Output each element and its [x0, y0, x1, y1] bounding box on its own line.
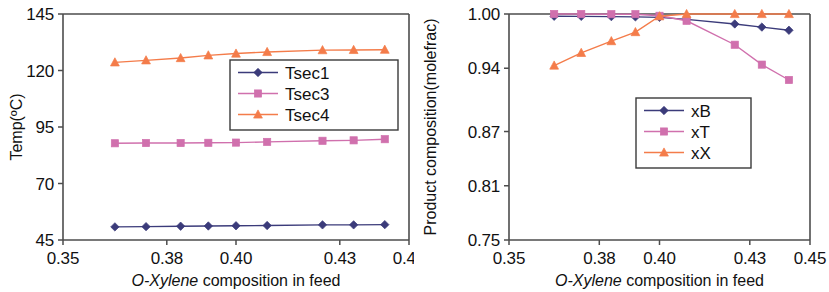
y-tick-label: 145 [26, 5, 54, 24]
x-tick-label: 0.35 [493, 249, 525, 268]
x-tick-label: 0.45 [393, 249, 414, 268]
chart-right-canvas: 0.750.810.870.941.000.350.380.400.430.45… [414, 0, 829, 292]
chart-right-svg: 0.750.810.870.941.000.350.380.400.430.45… [414, 0, 829, 292]
x-tick-label: 0.38 [583, 249, 615, 268]
x-tick-label: 0.38 [151, 249, 183, 268]
data-point-marker [204, 222, 212, 230]
chart-left-canvas: 4570951201450.350.380.400.430.45O-Xylene… [0, 0, 414, 292]
data-point-marker [319, 137, 326, 144]
legend-label-xX[interactable]: xX [691, 144, 711, 163]
y-tick-label: 45 [35, 231, 54, 250]
data-point-marker [350, 137, 357, 144]
data-point-marker [731, 41, 738, 48]
data-point-marker [550, 61, 559, 69]
x-axis-title: O-Xylene composition in feed [131, 272, 340, 289]
data-point-marker [254, 90, 261, 97]
series-line-Tsec3 [115, 139, 385, 143]
x-axis-ticks: 0.350.380.400.430.45 [47, 240, 414, 268]
data-point-marker [758, 61, 765, 68]
series-xT [551, 10, 793, 83]
data-point-marker [142, 139, 149, 146]
data-point-marker [111, 140, 118, 147]
y-tick-label: 0.75 [468, 231, 500, 250]
series-line-Tsec1 [115, 225, 385, 227]
x-axis-title: O-Xylene composition in feed [555, 272, 764, 289]
data-point-marker [785, 26, 793, 34]
series-Tsec3 [111, 136, 388, 147]
data-point-marker [177, 139, 184, 146]
legend[interactable]: xBxTxX [636, 98, 751, 168]
legend[interactable]: Tsec1Tsec3Tsec4 [230, 60, 398, 130]
chart-panel-left: 4570951201450.350.380.400.430.45O-Xylene… [0, 0, 414, 292]
y-axis-ticks: 0.750.810.870.941.00 [468, 5, 509, 250]
y-tick-label: 0.81 [468, 177, 500, 196]
data-point-marker [632, 11, 639, 18]
y-tick-label: 95 [35, 118, 54, 137]
y-axis-title: Product composition(molefrac) [422, 19, 439, 236]
y-tick-label: 1.00 [468, 5, 500, 24]
data-point-marker [318, 221, 326, 229]
legend-label-Tsec1[interactable]: Tsec1 [285, 64, 329, 83]
data-point-marker [176, 222, 184, 230]
data-point-marker [785, 76, 792, 83]
data-point-marker [631, 27, 640, 35]
data-point-marker [608, 11, 615, 18]
data-point-marker [660, 128, 667, 135]
data-point-marker [232, 139, 239, 146]
x-axis-ticks: 0.350.380.400.430.45 [493, 240, 826, 268]
x-tick-label: 0.40 [643, 249, 675, 268]
data-point-marker [349, 221, 357, 229]
y-axis-ticks: 457095120145 [26, 5, 63, 250]
data-point-marker [111, 223, 119, 231]
x-tick-label: 0.40 [220, 249, 252, 268]
data-point-marker [381, 136, 388, 143]
data-point-marker [731, 20, 739, 28]
x-tick-label: 0.43 [324, 249, 356, 268]
data-point-marker [758, 23, 766, 31]
x-tick-label: 0.43 [734, 249, 766, 268]
x-axis-title-italic: O-Xylene [555, 272, 622, 289]
series-Tsec1 [111, 220, 389, 231]
data-point-marker [264, 138, 271, 145]
data-point-marker [263, 221, 271, 229]
legend-label-Tsec3[interactable]: Tsec3 [285, 85, 329, 104]
chart-left-svg: 4570951201450.350.380.400.430.45O-Xylene… [0, 0, 414, 292]
data-point-marker [381, 220, 389, 228]
legend-label-xT[interactable]: xT [691, 123, 710, 142]
x-axis-title-rest: composition in feed [198, 272, 340, 289]
x-tick-label: 0.35 [47, 249, 79, 268]
data-point-marker [578, 10, 585, 17]
x-axis-title-italic: O-Xylene [131, 272, 198, 289]
legend-label-Tsec4[interactable]: Tsec4 [285, 106, 329, 125]
series-line-xT [554, 14, 789, 80]
y-tick-label: 0.87 [468, 123, 500, 142]
legend-label-xB[interactable]: xB [691, 102, 711, 121]
data-point-marker [551, 10, 558, 17]
data-point-marker [205, 139, 212, 146]
data-point-marker [142, 222, 150, 230]
data-point-marker [232, 222, 240, 230]
y-tick-label: 0.94 [468, 59, 500, 78]
x-tick-label: 0.45 [794, 249, 826, 268]
y-tick-label: 120 [26, 62, 54, 81]
figure-container: 4570951201450.350.380.400.430.45O-Xylene… [0, 0, 829, 292]
y-tick-label: 70 [35, 175, 54, 194]
chart-panel-right: 0.750.810.870.941.000.350.380.400.430.45… [414, 0, 829, 292]
data-point-marker [683, 17, 690, 24]
y-axis-title: Temp(ºC) [8, 93, 25, 160]
x-axis-title-rest: composition in feed [622, 272, 764, 289]
